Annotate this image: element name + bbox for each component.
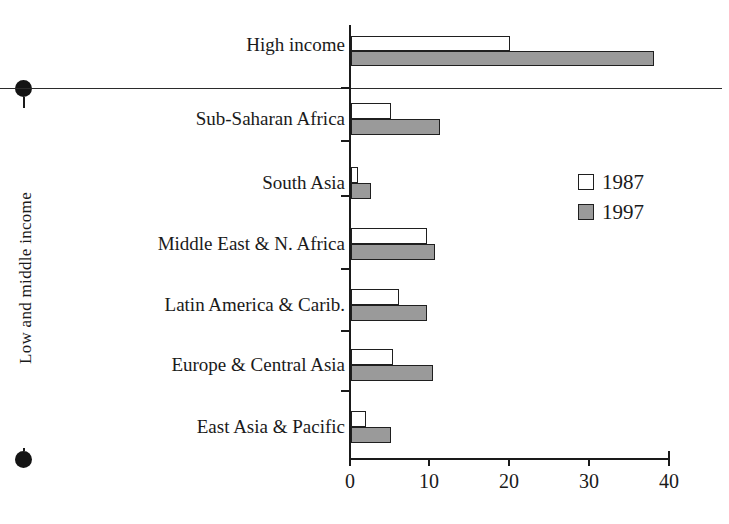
category-label-middle-east-n-africa: Middle East & N. Africa bbox=[158, 233, 345, 255]
x-tick-label-40: 40 bbox=[649, 470, 689, 493]
y-tick-4 bbox=[341, 268, 350, 270]
group-bracket: Low and middle income bbox=[8, 80, 42, 468]
x-tick-label-30: 30 bbox=[569, 470, 609, 493]
legend-label-1987: 1987 bbox=[602, 170, 644, 195]
category-label-sub-saharan-africa: Sub-Saharan Africa bbox=[196, 108, 345, 130]
y-tick-1 bbox=[341, 87, 350, 89]
x-tick-10 bbox=[428, 458, 430, 466]
x-tick-label-10: 10 bbox=[409, 470, 449, 493]
x-tick-20 bbox=[508, 458, 510, 466]
x-tick-label-0: 0 bbox=[330, 470, 370, 493]
bar-sub-saharan-africa-1997 bbox=[351, 119, 440, 135]
bar-east-asia-pacific-1987 bbox=[351, 411, 366, 427]
bracket-dot-bottom-icon bbox=[15, 451, 32, 468]
y-tick-6 bbox=[341, 390, 350, 392]
category-label-high-income: High income bbox=[246, 34, 345, 56]
legend-label-1997: 1997 bbox=[602, 200, 644, 225]
legend-swatch-1987-icon bbox=[578, 174, 594, 190]
bar-chart: Low and middle income 0 10 20 30 40 High… bbox=[0, 0, 729, 524]
bar-high-income-1987 bbox=[351, 36, 510, 51]
bar-europe-central-asia-1987 bbox=[351, 349, 393, 365]
y-tick-5 bbox=[341, 330, 350, 332]
bar-middle-east-n-africa-1987 bbox=[351, 228, 427, 244]
bar-high-income-1997 bbox=[351, 51, 654, 66]
bar-latin-america-carib-1987 bbox=[351, 289, 399, 305]
bar-sub-saharan-africa-1987 bbox=[351, 103, 391, 119]
group-separator-line bbox=[0, 88, 722, 89]
x-tick-0 bbox=[349, 458, 351, 466]
y-tick-2 bbox=[341, 140, 350, 142]
category-label-south-asia: South Asia bbox=[262, 172, 345, 194]
y-tick-3 bbox=[341, 195, 350, 197]
legend-swatch-1997-icon bbox=[578, 204, 594, 220]
bar-latin-america-carib-1997 bbox=[351, 305, 427, 321]
x-tick-40 bbox=[668, 458, 670, 466]
category-label-east-asia-pacific: East Asia & Pacific bbox=[197, 416, 345, 438]
category-label-europe-central-asia: Europe & Central Asia bbox=[171, 354, 345, 376]
bar-europe-central-asia-1997 bbox=[351, 365, 433, 381]
bar-south-asia-1987 bbox=[351, 167, 358, 183]
bar-middle-east-n-africa-1997 bbox=[351, 244, 435, 260]
bar-south-asia-1997 bbox=[351, 183, 371, 199]
category-label-latin-america-carib: Latin America & Carib. bbox=[165, 294, 345, 316]
x-tick-label-20: 20 bbox=[489, 470, 529, 493]
y-axis-group-label: Low and middle income bbox=[14, 108, 38, 448]
bar-east-asia-pacific-1997 bbox=[351, 427, 391, 443]
x-tick-30 bbox=[588, 458, 590, 466]
